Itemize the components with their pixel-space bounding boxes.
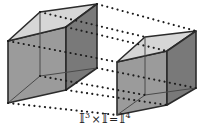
figure-caption: 𝕀3×𝕀=𝕀4 <box>0 112 210 126</box>
caption-term-3-exponent: 4 <box>125 111 130 120</box>
caption-term-1-exponent: 3 <box>85 111 90 120</box>
connector-line <box>97 4 196 31</box>
left-cube <box>8 4 97 103</box>
caption-equals-operator: = <box>108 113 120 126</box>
caption-times-operator: × <box>91 113 103 126</box>
right-cube <box>117 31 196 115</box>
hypercube-product-figure: 𝕀3×𝕀=𝕀4 <box>0 0 210 138</box>
